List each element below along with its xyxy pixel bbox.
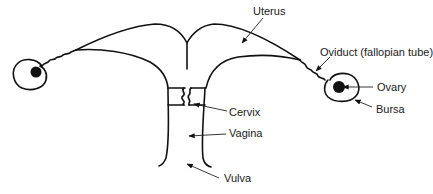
bursa-leader [355,100,372,107]
uterus-inner-right [206,55,300,88]
cervix [168,88,205,105]
uterus-inner-left [76,50,168,89]
cervix-label: Cervix [229,106,260,118]
uterine-horn-outer [76,24,300,60]
vulva-label: Vulva [224,172,251,184]
left-oviduct [42,50,76,66]
left-ovary [13,60,46,90]
oviduct-label: Oviduct (fallopian tube) [320,46,433,58]
vagina-label: Vagina [229,127,262,139]
ovary-label: Ovary [377,81,406,93]
uterus-label: Uterus [253,5,285,17]
cervix-leader [194,104,227,111]
right-oviduct [300,60,325,80]
vagina-wall-left [159,88,169,166]
vagina-leader [189,134,226,136]
bursa-label: Bursa [376,103,405,115]
vagina-wall-right [202,88,211,167]
vulva-leader [187,164,219,178]
oviduct-leader [316,57,330,71]
